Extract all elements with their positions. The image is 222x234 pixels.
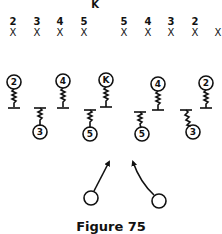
front-blocker-label: 2 [203,78,209,88]
second-blocker-label: 5 [87,129,93,139]
second-blocker-label: 5 [139,129,145,139]
figure-caption: Figure 75 [0,219,222,234]
front-blocker-label: 4 [60,76,66,86]
returner-left [84,162,109,205]
returner-right [133,162,166,208]
play-diagram [0,0,222,234]
second-blocker-label: 3 [37,127,43,137]
front-blocker-label: K [103,75,110,85]
second-blocker-label: 3 [190,127,196,137]
front-blocker-label: 2 [11,77,17,87]
front-blocker-label: 4 [155,79,161,89]
